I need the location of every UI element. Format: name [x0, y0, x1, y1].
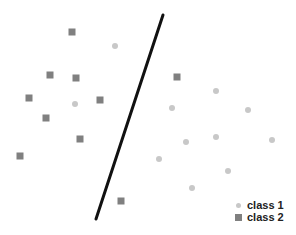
class-2-point [26, 95, 33, 102]
class-2-point [69, 29, 76, 36]
scatter-chart: class 1 class 2 [0, 0, 296, 235]
class-2-point [97, 97, 104, 104]
square-marker-icon [232, 214, 244, 221]
class-1-point [213, 88, 219, 94]
class-1-point [183, 139, 189, 145]
decision-boundary-line [96, 15, 163, 219]
legend-item-class-1: class 1 [232, 199, 284, 211]
legend: class 1 class 2 [232, 199, 284, 223]
class-1-point [213, 134, 219, 140]
legend-item-class-2: class 2 [232, 211, 284, 223]
class-1-point [245, 107, 251, 113]
class-2-point [73, 75, 80, 82]
class-2-point [43, 115, 50, 122]
class-1-point [269, 137, 275, 143]
class-1-point [189, 185, 195, 191]
class-2-point [118, 198, 125, 205]
legend-label: class 1 [247, 199, 284, 211]
class-2-point [47, 72, 54, 79]
class-2-point [17, 153, 24, 160]
class-2-point [174, 74, 181, 81]
class-1-point [156, 156, 162, 162]
legend-label: class 2 [247, 211, 284, 223]
class-1-point [72, 101, 78, 107]
circle-marker-icon [232, 203, 244, 208]
class-2-point [77, 136, 84, 143]
class-1-point [169, 105, 175, 111]
class-1-point [112, 43, 118, 49]
class-1-point [225, 168, 231, 174]
